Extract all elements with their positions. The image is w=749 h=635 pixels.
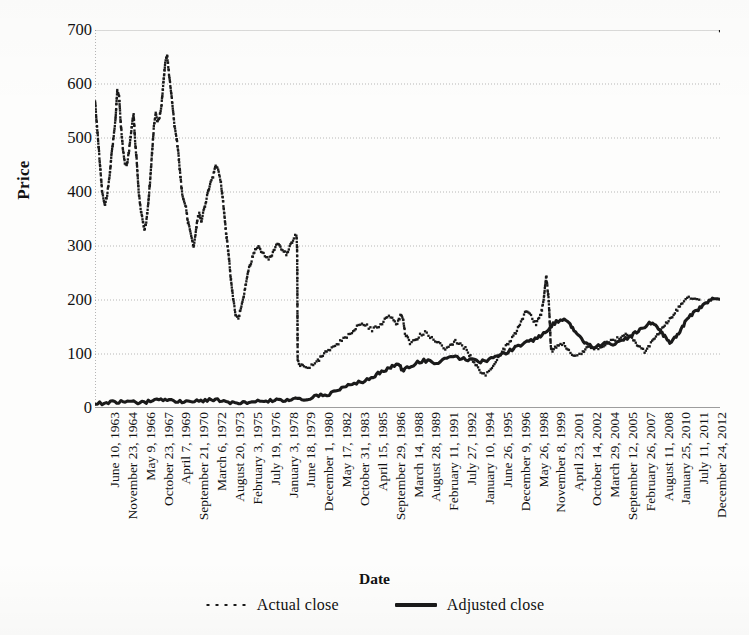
data-point xyxy=(98,150,100,152)
x-tick-label-text: January 3, 1978 xyxy=(287,412,301,498)
data-point xyxy=(126,161,128,163)
data-point xyxy=(228,254,230,256)
data-point xyxy=(293,237,295,239)
data-point xyxy=(137,182,139,184)
y-tick-label: 400 xyxy=(34,184,92,201)
data-point xyxy=(676,310,678,312)
data-point xyxy=(111,150,113,152)
data-point xyxy=(97,140,99,142)
data-point xyxy=(104,201,106,203)
data-point xyxy=(543,299,545,301)
data-point xyxy=(271,254,273,256)
data-point xyxy=(234,309,236,311)
data-point xyxy=(543,295,545,297)
data-point xyxy=(169,81,171,83)
data-point xyxy=(210,179,212,181)
data-point xyxy=(696,298,698,300)
data-point xyxy=(98,157,100,159)
data-point xyxy=(110,157,112,159)
data-point xyxy=(250,263,252,265)
x-tick-label-text: May 26, 1998 xyxy=(537,412,551,487)
data-point xyxy=(97,138,99,140)
data-point xyxy=(191,237,193,239)
data-point xyxy=(296,269,298,271)
data-point xyxy=(547,296,549,298)
data-point xyxy=(547,293,549,295)
data-point xyxy=(296,290,298,292)
data-point xyxy=(175,135,177,137)
data-point xyxy=(296,351,298,353)
data-point xyxy=(168,69,170,71)
data-point xyxy=(223,208,225,210)
data-point xyxy=(129,141,131,143)
data-point xyxy=(113,129,115,131)
data-point xyxy=(178,158,180,160)
x-tick-label-text: March 29, 2004 xyxy=(608,412,622,498)
data-point xyxy=(542,304,544,306)
x-tick-label-text: April 23, 2001 xyxy=(572,412,586,491)
data-point xyxy=(535,324,537,326)
x-tick-label-text: May 9, 1966 xyxy=(144,412,158,481)
x-tick-label-text: September 29, 1986 xyxy=(394,412,408,520)
data-point xyxy=(199,214,201,216)
data-point xyxy=(246,276,248,278)
data-point xyxy=(296,297,298,299)
data-point xyxy=(296,310,298,312)
y-tick-label: 200 xyxy=(34,292,92,309)
data-point xyxy=(233,300,235,302)
data-point xyxy=(223,212,225,214)
data-point xyxy=(97,142,99,144)
data-point xyxy=(692,298,694,300)
data-point xyxy=(149,176,151,178)
data-point xyxy=(179,169,181,171)
data-point xyxy=(224,217,226,219)
data-point xyxy=(158,117,160,119)
data-point xyxy=(160,110,162,112)
x-tick-label-text: June 10, 1963 xyxy=(108,412,122,487)
data-point xyxy=(182,198,184,200)
data-point xyxy=(671,316,673,318)
x-tick-label: February 26, 2007 xyxy=(640,313,654,412)
data-point xyxy=(296,287,298,289)
data-point xyxy=(186,213,188,215)
data-point xyxy=(291,242,293,244)
data-point xyxy=(208,188,210,190)
data-point xyxy=(113,127,115,129)
x-tick-label: December 24, 2012 xyxy=(711,306,725,412)
data-point xyxy=(296,246,298,248)
data-point xyxy=(279,246,281,248)
data-point xyxy=(195,226,197,228)
data-point xyxy=(698,299,700,301)
data-point xyxy=(296,241,298,243)
data-point xyxy=(719,30,720,32)
data-point xyxy=(185,206,187,208)
data-point xyxy=(123,159,125,161)
data-point xyxy=(96,125,98,127)
x-tick-label: September 12, 2005 xyxy=(622,304,636,412)
data-point xyxy=(224,223,226,225)
x-tick-label: August 11, 2008 xyxy=(658,323,672,412)
data-point xyxy=(245,280,247,282)
chart-figure: Price 0100200300400500600700 June 10, 19… xyxy=(0,0,749,635)
y-tick-label: 700 xyxy=(34,22,92,39)
data-point xyxy=(548,300,550,302)
data-point xyxy=(200,220,202,222)
data-point xyxy=(238,315,240,317)
data-point xyxy=(193,244,195,246)
data-point xyxy=(160,104,162,106)
data-point xyxy=(127,158,129,160)
data-point xyxy=(148,191,150,193)
data-point xyxy=(186,219,188,221)
data-point xyxy=(583,351,585,353)
data-point xyxy=(296,266,298,268)
data-point xyxy=(98,153,100,155)
data-point xyxy=(184,202,186,204)
data-point xyxy=(545,275,547,277)
data-point xyxy=(138,195,140,197)
data-point xyxy=(118,103,120,105)
data-point xyxy=(163,78,165,80)
data-point xyxy=(133,125,135,127)
data-point xyxy=(228,258,230,260)
data-point xyxy=(153,122,155,124)
x-tick-label: October 14, 2002 xyxy=(586,318,600,412)
